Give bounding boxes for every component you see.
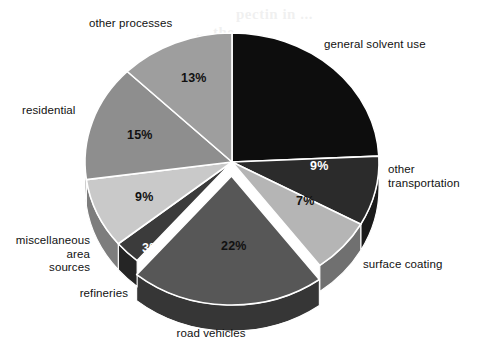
slice-label-road-vehicles: road vehicles [151,327,271,341]
slice-value-refineries: 3% [142,241,160,255]
slice-label-other-transportation: other transportation [388,163,460,190]
pie-chart-figure: pectin in ... ... the ... ... it is ... … [0,0,477,354]
slice-value-other-processes: 13% [181,71,207,85]
slice-value-residential: 15% [127,128,153,142]
slice-label-general-solvent-use: general solvent use [324,38,426,52]
slice-value-miscellaneous-area-sources: 9% [135,190,153,204]
slice-label-other-processes: other processes [89,17,172,31]
slice-label-refineries: refineries [0,287,128,301]
slice-value-other-transportation: 9% [310,159,328,173]
slice-value-road-vehicles: 22% [221,239,247,253]
pie-slice-general-solvent-use[interactable] [232,33,379,162]
slice-value-surface-coating: 7% [296,194,314,208]
slice-label-surface-coating: surface coating [363,258,443,272]
slice-label-residential: residential [22,104,76,118]
slice-label-miscellaneous-area-sources: miscellaneous area sources [0,234,90,275]
